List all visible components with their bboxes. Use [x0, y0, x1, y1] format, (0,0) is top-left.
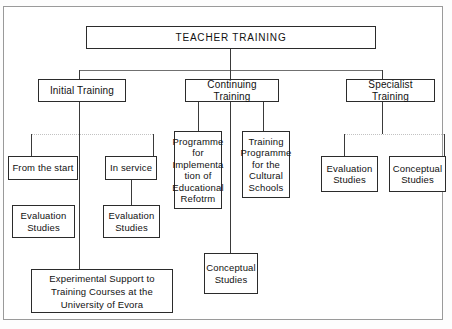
- node-label: Experimental Support to Training Courses…: [49, 272, 154, 311]
- node-label: In service: [110, 162, 152, 174]
- node-label: Initial Training: [50, 85, 114, 97]
- node-in-service: In service: [105, 156, 157, 180]
- connector-specialist-spine: [382, 102, 383, 134]
- connector-drop-conceptual-mid: [230, 102, 231, 253]
- node-continuing-training: Continuing Training: [185, 79, 279, 102]
- connector-drop-in-service: [153, 134, 154, 156]
- connector-drop-from-the-start: [31, 134, 32, 156]
- node-label: From the start: [12, 162, 73, 174]
- node-label: Evaluation Studies: [21, 210, 67, 233]
- diagram-canvas: TEACHER TRAINING Initial Training Contin…: [0, 0, 452, 329]
- node-conceptual-studies-specialist: Conceptual Studies: [389, 156, 446, 192]
- connector-drop-evaluation-specialist: [344, 134, 345, 156]
- node-label: Evaluation Studies: [327, 163, 373, 186]
- node-conceptual-studies-continuing: Conceptual Studies: [204, 253, 258, 294]
- node-label: Evaluation Studies: [109, 210, 155, 233]
- connector-drop-training-cultural: [263, 102, 264, 131]
- connector-in-service-to-evaluation: [131, 180, 132, 205]
- connector-specialist-rail: [344, 134, 444, 135]
- node-label: Conceptual Studies: [206, 262, 256, 285]
- node-label: Programme for Implementa tion of Educati…: [172, 136, 223, 205]
- node-label: Conceptual Studies: [393, 163, 443, 186]
- node-specialist-training: Specialist Training: [346, 79, 435, 102]
- node-label: TEACHER TRAINING: [176, 32, 287, 44]
- connector-initial-rail: [31, 134, 153, 135]
- node-label: Specialist Training: [349, 79, 432, 102]
- node-teacher-training: TEACHER TRAINING: [86, 26, 376, 49]
- figure-frame: TEACHER TRAINING Initial Training Contin…: [3, 6, 443, 320]
- node-evaluation-studies-from-the-start: Evaluation Studies: [12, 205, 75, 238]
- connector-drop-conceptual-specialist: [444, 134, 445, 156]
- node-experimental-support: Experimental Support to Training Courses…: [31, 269, 173, 313]
- connector-initial-spine: [79, 102, 80, 269]
- node-label: Continuing Training: [188, 79, 276, 102]
- node-evaluation-studies-specialist: Evaluation Studies: [321, 156, 378, 192]
- node-programme-implementation-reform: Programme for Implementa tion of Educati…: [174, 131, 222, 209]
- connector-root-stem: [230, 49, 231, 70]
- node-training-programme-cultural-schools: Training Programme for the Cultural Scho…: [242, 131, 290, 198]
- node-initial-training: Initial Training: [38, 79, 126, 102]
- node-label: Training Programme for the Cultural Scho…: [241, 136, 292, 194]
- node-evaluation-studies-in-service: Evaluation Studies: [103, 205, 160, 238]
- node-from-the-start: From the start: [8, 156, 78, 180]
- connector-drop-programme-reform: [198, 102, 199, 131]
